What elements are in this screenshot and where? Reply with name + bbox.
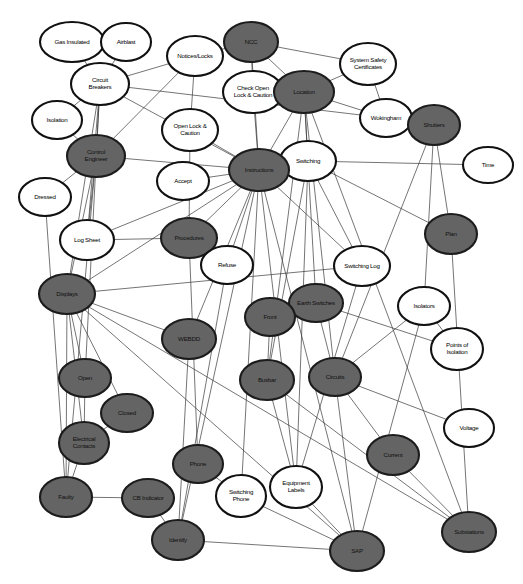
- node-shape[interactable]: [274, 71, 334, 113]
- graph-node-location[interactable]: Location: [274, 71, 334, 113]
- graph-node-accept[interactable]: Accept: [157, 162, 209, 200]
- graph-node-isolators[interactable]: Isolators: [398, 287, 450, 325]
- node-shape[interactable]: [229, 149, 289, 191]
- graph-node-faulty[interactable]: Faulty: [40, 477, 92, 517]
- node-shape[interactable]: [216, 475, 266, 517]
- node-shape[interactable]: [67, 135, 125, 177]
- graph-node-front[interactable]: Front: [245, 298, 295, 336]
- graph-edge: [331, 101, 362, 111]
- node-shape[interactable]: [201, 246, 253, 284]
- node-shape[interactable]: [463, 147, 513, 183]
- graph-node-system-safety-certs[interactable]: System SafetyCertificates: [340, 43, 396, 85]
- node-shape[interactable]: [425, 214, 477, 254]
- node-shape[interactable]: [60, 220, 114, 260]
- graph-edge: [268, 58, 286, 75]
- node-shape[interactable]: [122, 479, 174, 517]
- graph-node-equipment-labels[interactable]: EquipmentLabels: [270, 466, 322, 508]
- node-shape[interactable]: [309, 358, 361, 396]
- graph-node-notices-locks[interactable]: Notices/Locks: [167, 36, 223, 76]
- graph-node-open[interactable]: Open: [59, 359, 111, 397]
- node-shape[interactable]: [101, 394, 153, 432]
- node-shape[interactable]: [431, 328, 483, 370]
- graph-node-cb-indicator[interactable]: CB Indicator: [122, 479, 174, 517]
- graph-edge: [204, 542, 330, 550]
- graph-edge: [452, 254, 468, 512]
- node-shape[interactable]: [398, 287, 450, 325]
- graph-node-earth-switches[interactable]: Earth Switches: [289, 284, 343, 322]
- node-shape[interactable]: [101, 23, 151, 61]
- graph-node-control-engineer[interactable]: ControlEngineer: [67, 135, 125, 177]
- graph-node-phone[interactable]: Phone: [173, 445, 223, 483]
- graph-node-circuit-breakers[interactable]: CircuitBreakers: [71, 63, 129, 105]
- graph-edge: [268, 336, 269, 360]
- node-shape[interactable]: [360, 99, 412, 137]
- graph-node-switching-phone[interactable]: SwitchingPhone: [216, 475, 266, 517]
- graph-edge: [114, 239, 161, 240]
- graph-node-webdd[interactable]: WEBDD: [162, 319, 216, 359]
- graph-node-voltage[interactable]: Voltage: [444, 409, 494, 447]
- graph-edge: [353, 320, 407, 363]
- node-shape[interactable]: [224, 22, 278, 62]
- node-shape[interactable]: [340, 43, 396, 85]
- node-shape[interactable]: [167, 36, 223, 76]
- graph-node-sap[interactable]: SAP: [330, 531, 384, 571]
- graph-edge: [127, 64, 169, 76]
- graph-edge: [321, 322, 330, 359]
- node-shape[interactable]: [334, 246, 390, 286]
- graph-edge: [270, 111, 293, 150]
- node-shape[interactable]: [40, 477, 92, 517]
- node-shape[interactable]: [270, 466, 322, 508]
- node-shape[interactable]: [39, 274, 95, 314]
- graph-node-isolation[interactable]: Isolation: [32, 101, 82, 139]
- graph-node-closed[interactable]: Closed: [101, 394, 153, 432]
- node-shape[interactable]: [289, 284, 343, 322]
- node-shape[interactable]: [330, 531, 384, 571]
- graph-node-shutters[interactable]: Shutters: [408, 105, 460, 145]
- graph-node-dressed[interactable]: Dressed: [19, 178, 71, 216]
- node-shape[interactable]: [444, 409, 494, 447]
- graph-node-open-lock-caution[interactable]: Open Lock &Caution: [162, 109, 218, 151]
- node-shape[interactable]: [240, 360, 294, 400]
- graph-edge: [277, 47, 341, 59]
- graph-edge: [375, 84, 380, 99]
- graph-node-gas-insulated[interactable]: Gas Insulated: [40, 22, 104, 62]
- graph-node-plan[interactable]: Plan: [425, 214, 477, 254]
- node-shape[interactable]: [71, 63, 129, 105]
- node-shape[interactable]: [408, 105, 460, 145]
- node-shape[interactable]: [173, 445, 223, 483]
- node-shape[interactable]: [157, 162, 209, 200]
- graph-edge: [329, 75, 343, 81]
- graph-node-busbar[interactable]: Busbar: [240, 360, 294, 400]
- graph-node-circuits[interactable]: Circuits: [309, 358, 361, 396]
- graph-canvas: Gas InsulatedAirblastNotices/LocksNCCSys…: [0, 0, 523, 584]
- node-shape[interactable]: [59, 359, 111, 397]
- graph-node-airblast[interactable]: Airblast: [101, 23, 151, 61]
- graph-node-displays[interactable]: Displays: [39, 274, 95, 314]
- node-shape[interactable]: [245, 298, 295, 336]
- node-shape[interactable]: [19, 178, 71, 216]
- graph-node-wokingham[interactable]: Wokingham: [360, 99, 412, 137]
- graph-edge: [272, 400, 290, 467]
- graph-node-identify[interactable]: Identify: [152, 520, 204, 560]
- node-shape[interactable]: [59, 422, 109, 464]
- graph-node-instructions[interactable]: Instructions: [229, 149, 289, 191]
- graph-node-points-of-isolation[interactable]: Points ofIsolation: [431, 328, 483, 370]
- graph-edge: [62, 172, 76, 183]
- graph-node-time[interactable]: Time: [463, 147, 513, 183]
- graph-node-ncc[interactable]: NCC: [224, 22, 278, 62]
- graph-edge: [72, 463, 77, 477]
- graph-edge: [212, 143, 236, 157]
- graph-node-switching-log[interactable]: Switching Log: [334, 246, 390, 286]
- graph-node-log-sheet[interactable]: Log Sheet: [60, 220, 114, 260]
- node-shape[interactable]: [442, 512, 496, 552]
- graph-node-electrical-contacts[interactable]: ElectricalContacts: [59, 422, 109, 464]
- node-shape[interactable]: [152, 520, 204, 560]
- graph-node-refuse[interactable]: Refuse: [201, 246, 253, 284]
- node-shape[interactable]: [40, 22, 104, 62]
- node-shape[interactable]: [367, 435, 419, 475]
- node-shape[interactable]: [162, 109, 218, 151]
- node-shape[interactable]: [32, 101, 82, 139]
- graph-node-current[interactable]: Current: [367, 435, 419, 475]
- node-shape[interactable]: [162, 319, 216, 359]
- graph-node-substations[interactable]: Substations: [442, 512, 496, 552]
